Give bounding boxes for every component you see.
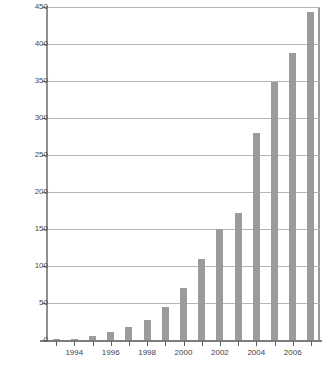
bar [107, 332, 114, 340]
bar-chart: 050100150200250300350400450 199419961998… [0, 0, 334, 382]
x-tick-mark [93, 341, 94, 346]
y-tick-label: 0 [8, 336, 48, 344]
x-tick-label: 2002 [200, 348, 240, 357]
bar [71, 339, 78, 340]
x-tick-mark [184, 341, 185, 346]
bar [125, 327, 132, 340]
bars-layer [47, 7, 320, 340]
x-tick-label: 2004 [236, 348, 276, 357]
bar [289, 53, 296, 340]
bar [307, 12, 314, 340]
x-tick-mark [129, 341, 130, 346]
bar [198, 259, 205, 340]
x-tick-label: 1994 [54, 348, 94, 357]
bar [53, 339, 60, 340]
y-tick-label: 450 [8, 3, 48, 11]
y-tick-label: 50 [8, 299, 48, 307]
x-tick-mark [293, 341, 294, 346]
x-tick-mark [275, 341, 276, 346]
x-tick-mark [111, 341, 112, 346]
bar [144, 320, 151, 340]
y-tick-label: 100 [8, 262, 48, 270]
bar [235, 213, 242, 340]
bar [216, 229, 223, 340]
x-tick-mark [165, 341, 166, 346]
bar [180, 288, 187, 340]
x-tick-mark [238, 341, 239, 346]
bar [162, 307, 169, 340]
x-tick-label: 1996 [91, 348, 131, 357]
y-tick-label: 300 [8, 114, 48, 122]
x-tick-mark [202, 341, 203, 346]
x-tick-mark [56, 341, 57, 346]
x-axis-line [40, 340, 322, 342]
x-tick-mark [256, 341, 257, 346]
x-tick-mark [147, 341, 148, 346]
y-tick-label: 200 [8, 188, 48, 196]
y-tick-label: 400 [8, 40, 48, 48]
x-tick-label: 2000 [164, 348, 204, 357]
bar [89, 336, 96, 340]
x-tick-label: 1998 [127, 348, 167, 357]
bar [253, 133, 260, 340]
bar [271, 82, 278, 340]
y-tick-label: 250 [8, 151, 48, 159]
y-tick-label: 350 [8, 77, 48, 85]
x-tick-mark [311, 341, 312, 346]
y-tick-label: 150 [8, 225, 48, 233]
x-tick-label: 2006 [273, 348, 313, 357]
x-tick-mark [220, 341, 221, 346]
x-tick-mark [74, 341, 75, 346]
